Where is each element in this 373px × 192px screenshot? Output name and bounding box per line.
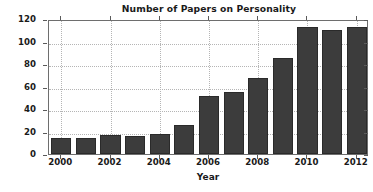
y-axis-tick-mark: [43, 155, 47, 156]
bar: [51, 138, 71, 154]
x-axis-tick-mark: [110, 155, 111, 159]
bar: [174, 125, 194, 154]
gridline-horizontal: [49, 44, 367, 45]
x-axis-tick-mark-top: [159, 16, 160, 20]
x-axis-tick-mark-top: [306, 16, 307, 20]
bar: [297, 27, 317, 154]
y-axis-tick-mark-right: [364, 65, 368, 66]
y-axis-tick-mark-right: [364, 88, 368, 89]
y-axis-tick-mark: [43, 133, 47, 134]
x-axis-tick-mark: [257, 155, 258, 159]
y-axis-tick-mark: [43, 110, 47, 111]
x-axis-tick-mark: [159, 155, 160, 159]
y-axis-tick-mark-right: [364, 43, 368, 44]
x-axis-tick-mark-top: [110, 16, 111, 20]
x-axis-tick-mark-top: [356, 16, 357, 20]
y-axis-tick-mark: [43, 88, 47, 89]
gridline-vertical: [61, 21, 62, 154]
x-axis-title: Year: [48, 172, 368, 182]
gridline-horizontal: [49, 89, 367, 90]
bar: [224, 92, 244, 154]
gridline-horizontal: [49, 66, 367, 67]
bar: [150, 134, 170, 154]
x-axis-tick-mark-top: [208, 16, 209, 20]
bar: [125, 136, 145, 154]
bar-chart-figure: Number of Papers on Personality 02040608…: [0, 0, 373, 192]
x-axis-tick-marks: [48, 155, 368, 160]
y-axis-tick-marks-right: [364, 20, 369, 155]
bar: [248, 78, 268, 155]
y-axis-tick-mark: [43, 20, 47, 21]
page-title: Number of Papers on Personality: [48, 3, 370, 14]
x-axis-tick-mark: [208, 155, 209, 159]
plot-area: [48, 20, 368, 155]
bar: [100, 135, 120, 154]
x-axis-tick-mark-top: [257, 16, 258, 20]
x-axis-tick-mark: [306, 155, 307, 159]
y-axis-tick-marks: [0, 20, 48, 155]
y-axis-tick-mark: [43, 65, 47, 66]
x-axis-tick-marks-top: [48, 16, 368, 21]
y-axis-tick-mark-right: [364, 110, 368, 111]
x-axis-tick-mark: [356, 155, 357, 159]
y-axis-tick-mark: [43, 43, 47, 44]
y-axis-tick-mark-right: [364, 133, 368, 134]
bar: [322, 30, 342, 154]
bar: [199, 96, 219, 155]
bar: [273, 58, 293, 154]
bar: [76, 138, 96, 154]
x-axis-tick-mark: [60, 155, 61, 159]
x-axis-tick-mark-top: [60, 16, 61, 20]
